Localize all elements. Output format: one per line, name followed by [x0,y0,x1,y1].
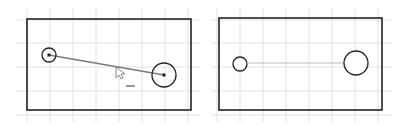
panel-after-constraint [211,8,392,122]
constraint-line [49,55,164,75]
diagram-canvas [0,0,411,125]
large-circle-center-point[interactable] [163,74,166,77]
arrow-pointer-icon [116,67,125,79]
small-circle[interactable] [233,57,247,71]
small-circle-center-point[interactable] [48,54,51,57]
sketch-rectangle [27,19,191,110]
panel-before-constraint [16,8,200,122]
large-circle[interactable] [344,51,368,75]
